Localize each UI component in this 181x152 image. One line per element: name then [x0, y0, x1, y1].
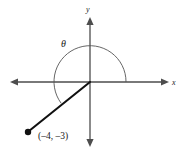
angle-theta-label: θ	[61, 38, 66, 49]
x-axis-right-arrow-icon	[161, 78, 169, 85]
x-axis-label: x	[171, 78, 176, 87]
point-coordinate-label: (–4, –3)	[38, 131, 68, 142]
terminal-ray	[29, 82, 90, 131]
y-axis-label: y	[85, 5, 90, 14]
y-axis-top-arrow-icon	[86, 17, 93, 25]
angle-diagram-figure: x y θ (–4, –3)	[0, 0, 181, 152]
point-marker	[25, 129, 31, 135]
x-axis-left-arrow-icon	[10, 78, 18, 85]
y-axis-bottom-arrow-icon	[86, 139, 93, 147]
coordinate-plane-diagram: x y θ (–4, –3)	[0, 0, 181, 152]
